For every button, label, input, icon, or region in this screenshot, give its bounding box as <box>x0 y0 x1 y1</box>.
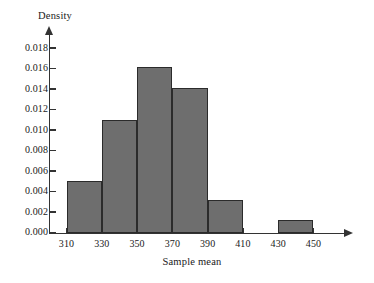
y-axis-tick-label: 0.008 <box>25 144 48 155</box>
x-axis-title: Sample mean <box>162 256 221 267</box>
x-axis-tick-label: 450 <box>297 238 331 249</box>
histogram-bar <box>137 67 172 232</box>
x-axis-tick-label: 410 <box>226 238 260 249</box>
y-axis-tick <box>50 170 56 171</box>
y-axis-tick-label: 0.004 <box>25 185 48 196</box>
histogram-bar <box>67 181 102 232</box>
y-axis-tick-label: 0.000 <box>25 226 48 237</box>
y-axis-tick-label: 0.018 <box>25 42 48 53</box>
y-axis-tick-label: 0.016 <box>25 62 48 73</box>
x-axis-tick-label: 430 <box>261 238 295 249</box>
x-axis-tick-label: 330 <box>85 238 119 249</box>
y-axis-tick <box>50 211 56 212</box>
histogram-bar <box>208 200 243 233</box>
x-axis-arrow-icon <box>344 229 353 237</box>
histogram-bar <box>172 88 207 233</box>
y-axis-tick <box>50 109 56 110</box>
y-axis-line <box>49 34 50 234</box>
y-axis-tick <box>50 129 56 130</box>
histogram-bar <box>102 120 137 233</box>
y-axis-tick-label: 0.010 <box>25 124 48 135</box>
y-axis-tick <box>50 150 56 151</box>
y-axis-tick-label: 0.006 <box>25 165 48 176</box>
y-axis-tick-label: 0.012 <box>25 103 48 114</box>
x-axis-tick-label: 370 <box>155 238 189 249</box>
x-axis-tick-label: 350 <box>120 238 154 249</box>
y-axis-tick <box>50 68 56 69</box>
y-axis-tick <box>50 88 56 89</box>
histogram-chart: Density 0.0000.0020.0040.0060.0080.0100.… <box>0 0 374 283</box>
y-axis-title: Density <box>38 10 72 21</box>
x-axis-line <box>49 233 346 234</box>
x-axis-title-wrapper: Sample mean <box>0 256 374 267</box>
y-axis-tick <box>50 191 56 192</box>
y-axis-tick-label: 0.014 <box>25 83 48 94</box>
x-axis-tick-label: 310 <box>50 238 84 249</box>
y-axis-tick <box>50 232 56 233</box>
y-axis-tick <box>50 47 56 48</box>
x-axis-tick-label: 390 <box>191 238 225 249</box>
y-axis-tick-label: 0.002 <box>25 206 48 217</box>
histogram-bar <box>278 220 313 232</box>
